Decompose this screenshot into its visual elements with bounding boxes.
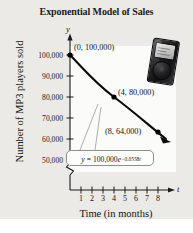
equation-lhs: y — [81, 155, 84, 164]
point-label-4: (4, 80,000) — [118, 88, 154, 97]
equation-equals: = — [87, 155, 91, 164]
y-tick-label: 70,000 — [23, 114, 63, 123]
y-tick-label: 100,000 — [23, 51, 63, 60]
y-tick-label: 60,000 — [23, 135, 63, 144]
y-tick-label: 80,000 — [23, 93, 63, 102]
equation-coefficient: 100,000 — [93, 155, 118, 164]
y-axis-variable-label: y — [66, 24, 70, 34]
point-label-0: (0, 100,000) — [74, 43, 114, 52]
callout-leader-lines — [80, 104, 101, 150]
y-tick-label: 50,000 — [23, 156, 63, 165]
x-tick-label: 8 — [152, 194, 164, 203]
mp3-player-photo — [147, 37, 178, 83]
point-label-8: (8, 64,000) — [105, 127, 141, 136]
figure-container: Exponential Model of Sales Number of MP3… — [0, 0, 193, 233]
equation-text: y = 100,000 e −0.0558t — [67, 151, 155, 167]
x-axis-variable-label: t — [177, 184, 179, 194]
y-axis-arrowhead — [67, 34, 72, 41]
x-axis-arrowhead — [168, 187, 175, 192]
y-tick-label: 90,000 — [23, 72, 63, 81]
data-point-marker — [67, 52, 72, 57]
equation-exponent: −0.0558t — [121, 156, 141, 162]
equation-callout-box: y = 100,000 e −0.0558t — [66, 150, 154, 166]
mp3-player-center-button — [159, 67, 165, 73]
data-point-marker — [155, 129, 160, 134]
data-point-marker — [111, 94, 116, 99]
